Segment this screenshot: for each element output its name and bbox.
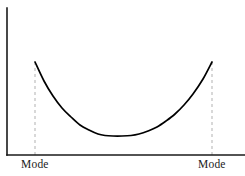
mode-label-left: Mode: [21, 159, 49, 171]
density-curve: [35, 62, 212, 136]
mode-label-right: Mode: [198, 159, 226, 171]
figure-container: Mode Mode: [0, 0, 245, 176]
mode-curve-chart: [0, 0, 245, 176]
